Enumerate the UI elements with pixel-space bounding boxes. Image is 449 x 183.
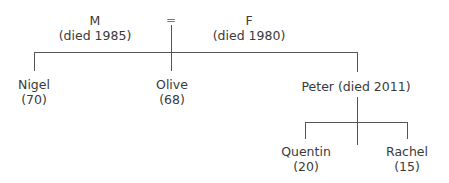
child-peter-name: Peter (died 2011) bbox=[301, 79, 410, 94]
child-olive-name: Olive bbox=[156, 77, 188, 92]
grandchild-rachel-detail: (15) bbox=[386, 159, 428, 174]
parent-f-detail: (died 1980) bbox=[213, 28, 286, 43]
child-olive-detail: (68) bbox=[156, 92, 188, 107]
child-peter: Peter (died 2011) bbox=[301, 79, 410, 94]
grandchild-quentin-detail: (20) bbox=[281, 159, 331, 174]
child-nigel-name: Nigel bbox=[18, 77, 50, 92]
parent-m: M (died 1985) bbox=[59, 13, 132, 43]
child-nigel-detail: (70) bbox=[18, 92, 50, 107]
parent-f: F (died 1980) bbox=[213, 13, 286, 43]
child-olive: Olive (68) bbox=[156, 77, 188, 107]
marriage-symbol: = bbox=[166, 13, 176, 27]
parent-m-detail: (died 1985) bbox=[59, 28, 132, 43]
grandchild-rachel: Rachel (15) bbox=[386, 144, 428, 174]
parent-m-name: M bbox=[59, 13, 132, 28]
child-nigel: Nigel (70) bbox=[18, 77, 50, 107]
parent-f-name: F bbox=[213, 13, 286, 28]
grandchild-quentin: Quentin (20) bbox=[281, 144, 331, 174]
grandchild-quentin-name: Quentin bbox=[281, 144, 331, 159]
grandchild-rachel-name: Rachel bbox=[386, 144, 428, 159]
